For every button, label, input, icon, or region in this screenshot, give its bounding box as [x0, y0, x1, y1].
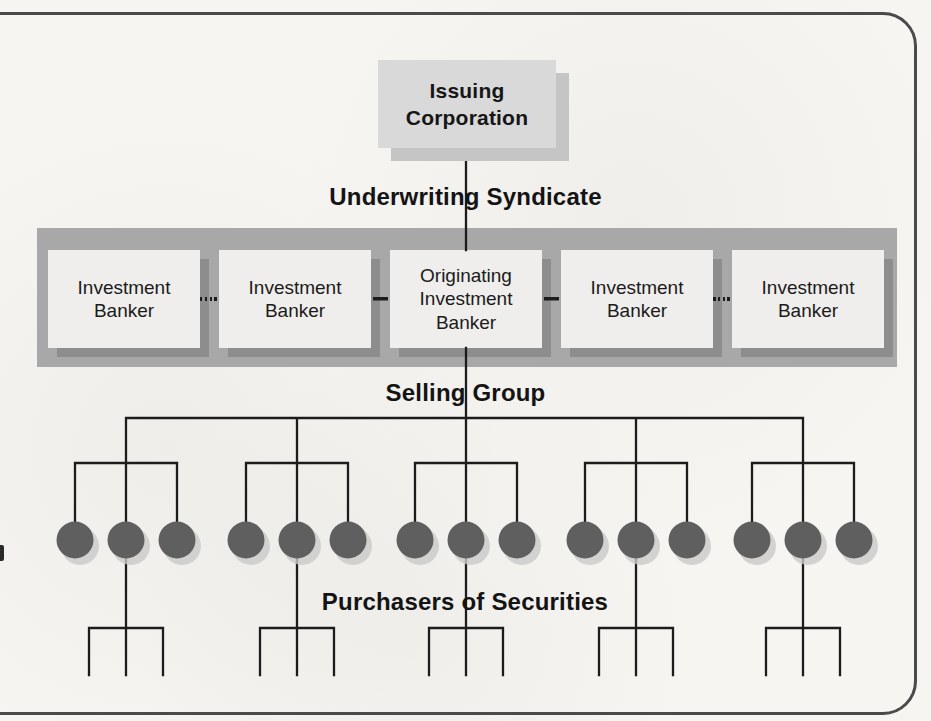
purchaser-node — [836, 522, 879, 566]
purchasers-of-securities-label: Purchasers of Securities — [0, 588, 930, 616]
purchaser-node — [279, 522, 322, 566]
purchaser-node — [159, 522, 202, 566]
page-edge-mark — [0, 545, 4, 561]
purchaser-node — [785, 522, 828, 566]
purchaser-node — [57, 522, 100, 566]
purchaser-node — [734, 522, 777, 566]
selling-group-label: Selling Group — [0, 379, 931, 407]
purchaser-node — [618, 522, 661, 566]
figure-page: Investment Banker Investment Banker Orig… — [0, 0, 931, 721]
purchaser-node — [330, 522, 373, 566]
purchaser-node — [108, 522, 151, 566]
purchaser-node — [567, 522, 610, 566]
purchaser-node — [499, 522, 542, 566]
purchaser-node — [448, 522, 491, 566]
purchaser-node — [397, 522, 440, 566]
issuing-corporation-box: Issuing Corporation — [378, 60, 556, 148]
purchaser-node — [669, 522, 712, 566]
underwriting-syndicate-label: Underwriting Syndicate — [0, 183, 931, 211]
purchaser-node — [228, 522, 271, 566]
